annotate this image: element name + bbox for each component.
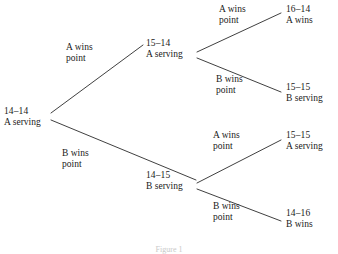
node-leaf-b-wins-14-16-status: B wins (286, 219, 313, 230)
edge-root-a-wins (51, 45, 143, 113)
node-root: 14–14 A serving (4, 106, 41, 128)
edge-label-root-b-wins-line2: point (62, 159, 89, 170)
node-leaf-a-serving-15-15: 15–15 A serving (286, 130, 323, 152)
edge-label-root-b-wins-point: B wins point (62, 148, 89, 170)
edge-label-lower-b-wins-point: B wins point (213, 201, 240, 223)
edge-label-root-a-wins-line1: A wins (66, 42, 93, 53)
node-leaf-b-serving-15-15: 15–15 B serving (286, 82, 323, 104)
edge-label-upper-b-wins-point: B wins point (216, 74, 243, 96)
edge-label-upper-a-wins-line2: point (219, 15, 246, 26)
edge-label-upper-b-wins-line2: point (216, 85, 243, 96)
node-a-serving-15-14: 15–14 A serving (146, 38, 183, 60)
node-leaf-a-wins-16-14-score: 16–14 (286, 4, 313, 15)
node-leaf-b-wins-14-16-score: 14–16 (286, 208, 313, 219)
edge-label-root-b-wins-line1: B wins (62, 148, 89, 159)
node-leaf-a-serving-15-15-score: 15–15 (286, 130, 323, 141)
node-leaf-b-wins-14-16: 14–16 B wins (286, 208, 313, 230)
node-leaf-b-serving-15-15-status: B serving (286, 93, 323, 104)
edge-label-upper-b-wins-line1: B wins (216, 74, 243, 85)
node-leaf-a-wins-16-14: 16–14 A wins (286, 4, 313, 26)
node-a-serving-15-14-score: 15–14 (146, 38, 183, 49)
node-root-status: A serving (4, 117, 41, 128)
node-leaf-a-serving-15-15-status: A serving (286, 141, 323, 152)
edge-label-upper-a-wins-point: A wins point (219, 4, 246, 26)
edge-label-root-a-wins-point: A wins point (66, 42, 93, 64)
edge-label-lower-a-wins-line1: A wins (213, 130, 240, 141)
edge-label-lower-b-wins-line2: point (213, 212, 240, 223)
node-leaf-b-serving-15-15-score: 15–15 (286, 82, 323, 93)
edge-label-root-a-wins-line2: point (66, 53, 93, 64)
edge-label-lower-b-wins-line1: B wins (213, 201, 240, 212)
edge-label-lower-a-wins-line2: point (213, 141, 240, 152)
node-root-score: 14–14 (4, 106, 41, 117)
figure-caption: Figure 1 (0, 245, 338, 254)
edge-label-lower-a-wins-point: A wins point (213, 130, 240, 152)
node-b-serving-14-15-score: 14–15 (146, 170, 183, 181)
node-a-serving-15-14-status: A serving (146, 49, 183, 60)
node-b-serving-14-15-status: B serving (146, 181, 183, 192)
node-leaf-a-wins-16-14-status: A wins (286, 15, 313, 26)
edge-label-upper-a-wins-line1: A wins (219, 4, 246, 15)
node-b-serving-14-15: 14–15 B serving (146, 170, 183, 192)
